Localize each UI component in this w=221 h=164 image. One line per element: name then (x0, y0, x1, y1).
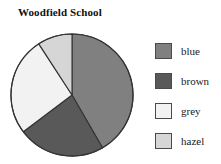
legend-swatch-hazel (155, 133, 172, 149)
legend-label-grey: grey (181, 106, 201, 117)
pie-chart (10, 33, 134, 157)
legend-item-hazel[interactable]: hazel (155, 132, 204, 150)
legend-swatch-grey (155, 103, 172, 119)
chart-legend: bluebrowngreyhazel (155, 36, 219, 160)
legend-label-blue: blue (181, 46, 200, 57)
legend-label-hazel: hazel (181, 136, 204, 147)
legend-swatch-brown (155, 73, 172, 89)
legend-label-brown: brown (181, 76, 209, 87)
legend-item-brown[interactable]: brown (155, 72, 209, 90)
pie-slice-group (11, 34, 133, 156)
page-title: Woodfield School (18, 6, 148, 18)
legend-swatch-blue (155, 43, 172, 59)
legend-item-grey[interactable]: grey (155, 102, 201, 120)
pie-chart-svg (10, 33, 134, 157)
legend-item-blue[interactable]: blue (155, 42, 200, 60)
chart-screenshot: Woodfield School bluebrowngreyhazel (0, 0, 221, 164)
